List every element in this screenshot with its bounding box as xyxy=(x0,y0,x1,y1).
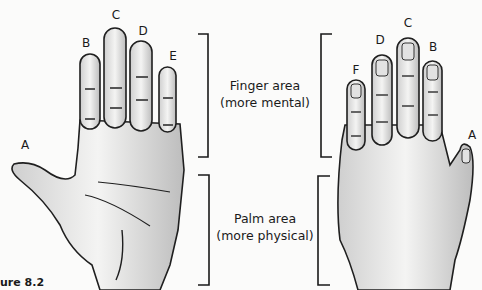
left-label-a: A xyxy=(21,139,29,151)
right-label-c: C xyxy=(404,17,412,29)
right-label-d: D xyxy=(375,34,384,46)
finger-area-subtitle: (more mental) xyxy=(210,94,320,111)
left-label-d: D xyxy=(138,25,147,37)
region-brackets xyxy=(198,34,332,285)
left-label-e: E xyxy=(169,50,177,62)
right-finger-bracket xyxy=(321,34,332,157)
left-finger-bracket xyxy=(198,34,208,157)
finger-area-caption: Finger area (more mental) xyxy=(210,77,320,111)
right-label-a: A xyxy=(468,129,476,141)
right-label-f: F xyxy=(353,64,360,76)
finger-area-title: Finger area xyxy=(210,77,320,94)
palm-area-title: Palm area xyxy=(210,210,320,227)
left-label-c: C xyxy=(112,9,120,21)
hand-illustrations xyxy=(0,0,482,290)
left-palm-bracket xyxy=(198,175,209,285)
figure-label: ure 8.2 xyxy=(0,276,44,289)
left-hand-palm-drawing xyxy=(12,28,184,290)
palm-area-caption: Palm area (more physical) xyxy=(210,210,320,244)
hand-diagram-figure: A B C D E F D C B A Finger area (more me… xyxy=(0,0,482,290)
palm-area-subtitle: (more physical) xyxy=(210,227,320,244)
right-label-b: B xyxy=(429,41,437,53)
left-label-b: B xyxy=(82,37,90,49)
